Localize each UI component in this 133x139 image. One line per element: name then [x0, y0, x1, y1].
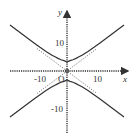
y-tick-label-neg10: -10 [51, 104, 63, 114]
y-axis-label: y [57, 7, 62, 17]
x-tick-label-neg10: -10 [34, 74, 46, 84]
x-axis-label: x [122, 74, 127, 84]
hyperbola-diagram: y x O -10 10 10 -10 [0, 0, 133, 139]
hyperbola-upper-branch [10, 25, 124, 62]
origin-label: O [58, 74, 65, 84]
x-tick-label-10: 10 [93, 74, 103, 84]
y-tick-label-10: 10 [55, 38, 65, 48]
hyperbola-lower-branch [10, 80, 124, 117]
